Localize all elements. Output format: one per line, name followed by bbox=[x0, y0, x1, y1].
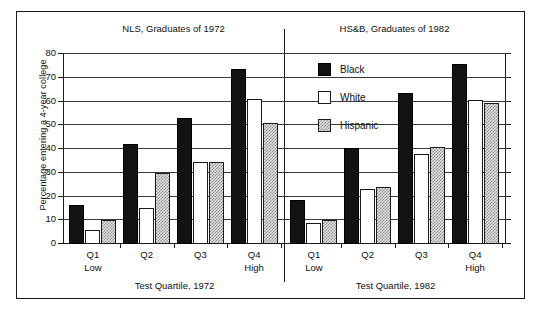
bar-hispanic-q1 bbox=[101, 220, 116, 244]
bar-black-q1 bbox=[69, 205, 84, 244]
chart-frame: Percentage entering a 4-year college 010… bbox=[16, 11, 525, 299]
y-tick bbox=[58, 53, 63, 54]
legend-label-black: Black bbox=[340, 63, 364, 76]
y-tick-label: 50 bbox=[45, 120, 56, 130]
bar-black-q3 bbox=[177, 118, 192, 244]
y-tick-label: 60 bbox=[45, 96, 56, 106]
x-tick bbox=[341, 243, 342, 248]
right-tick bbox=[506, 77, 511, 78]
bar-black-q2 bbox=[123, 144, 138, 244]
panel-divider bbox=[284, 29, 285, 282]
x-tick bbox=[174, 243, 175, 248]
bar-white-q2 bbox=[139, 208, 154, 244]
legend-label-hispanic: Hispanic bbox=[340, 119, 378, 132]
right-tick bbox=[506, 196, 511, 197]
x-tick-sublabel: High bbox=[244, 262, 264, 273]
x-tick bbox=[448, 243, 449, 248]
panel-title: NLS, Graduates of 1972 bbox=[64, 23, 283, 34]
y-axis-title: Percentage entering a 4-year college bbox=[38, 35, 48, 235]
x-tick-label: Q2 bbox=[140, 249, 153, 260]
x-tick bbox=[227, 243, 228, 248]
x-tick-label: Q4 bbox=[469, 249, 482, 260]
y-tick-label: 40 bbox=[45, 143, 56, 153]
bar-black-q3 bbox=[398, 93, 413, 244]
right-tick bbox=[506, 148, 511, 149]
y-tick-label: 20 bbox=[45, 191, 56, 201]
bar-black-q4 bbox=[452, 64, 467, 245]
gridline bbox=[63, 124, 506, 125]
y-tick bbox=[58, 243, 63, 244]
x-tick-label: Q1 bbox=[308, 249, 321, 260]
bar-hispanic-q3 bbox=[430, 147, 445, 244]
x-tick-label: Q2 bbox=[361, 249, 374, 260]
bar-white-q3 bbox=[193, 162, 208, 244]
x-tick-label: Q3 bbox=[194, 249, 207, 260]
bar-hispanic-q3 bbox=[209, 162, 224, 244]
plot-area: 01020304050607080 Q1LowQ2Q3Q4HighTest Qu… bbox=[63, 53, 506, 244]
y-tick bbox=[58, 124, 63, 125]
x-tick-label: Q1 bbox=[87, 249, 100, 260]
gridline bbox=[63, 53, 506, 54]
y-tick-label: 70 bbox=[45, 72, 56, 82]
bar-hispanic-q1 bbox=[322, 220, 337, 244]
right-tick bbox=[506, 124, 511, 125]
y-tick-label: 10 bbox=[45, 215, 56, 225]
x-tick-sublabel: Low bbox=[305, 262, 322, 273]
gridline bbox=[63, 77, 506, 78]
y-tick bbox=[58, 77, 63, 78]
x-tick bbox=[395, 243, 396, 248]
y-tick-label: 0 bbox=[51, 238, 56, 248]
x-tick-sublabel: High bbox=[465, 262, 485, 273]
chart-page: Percentage entering a 4-year college 010… bbox=[0, 0, 541, 316]
right-tick bbox=[506, 101, 511, 102]
legend-swatch-hispanic-icon bbox=[318, 119, 331, 132]
bar-white-q1 bbox=[85, 230, 100, 244]
bar-white-q4 bbox=[468, 100, 483, 244]
x-axis-title: Test Quartile, 1982 bbox=[356, 280, 436, 291]
legend-swatch-white-icon bbox=[318, 91, 331, 104]
bar-white-q3 bbox=[414, 154, 429, 244]
bar-white-q1 bbox=[306, 223, 321, 244]
y-tick bbox=[58, 219, 63, 220]
bar-white-q4 bbox=[247, 99, 262, 244]
y-tick bbox=[58, 101, 63, 102]
legend-swatch-black-icon bbox=[318, 63, 331, 76]
x-tick bbox=[281, 243, 282, 248]
y-tick bbox=[58, 172, 63, 173]
bar-hispanic-q4 bbox=[484, 103, 499, 244]
right-tick bbox=[506, 243, 511, 244]
bar-black-q2 bbox=[344, 148, 359, 244]
x-tick bbox=[502, 243, 503, 248]
bar-hispanic-q4 bbox=[263, 123, 278, 244]
right-tick bbox=[506, 53, 511, 54]
x-tick-label: Q3 bbox=[415, 249, 428, 260]
right-tick bbox=[506, 172, 511, 173]
bar-hispanic-q2 bbox=[155, 173, 170, 244]
y-tick-label: 80 bbox=[45, 48, 56, 58]
y-tick-label: 30 bbox=[45, 167, 56, 177]
panel-title: HS&B, Graduates of 1982 bbox=[285, 23, 504, 34]
bar-white-q2 bbox=[360, 189, 375, 244]
x-axis-title: Test Quartile, 1972 bbox=[135, 280, 215, 291]
y-tick bbox=[58, 196, 63, 197]
legend-label-white: White bbox=[340, 91, 366, 104]
bar-hispanic-q2 bbox=[376, 187, 391, 244]
x-tick-sublabel: Low bbox=[84, 262, 101, 273]
x-tick bbox=[120, 243, 121, 248]
right-tick bbox=[506, 219, 511, 220]
bar-black-q4 bbox=[231, 69, 246, 244]
y-tick bbox=[58, 148, 63, 149]
gridline bbox=[63, 101, 506, 102]
x-tick-label: Q4 bbox=[248, 249, 261, 260]
bar-black-q1 bbox=[290, 200, 305, 244]
